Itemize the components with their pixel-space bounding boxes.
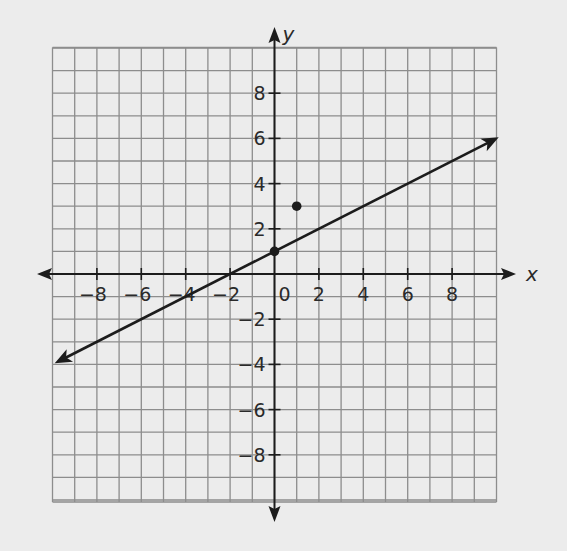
y-tick-label: 4	[253, 173, 265, 195]
y-tick-label: 8	[253, 82, 265, 104]
coordinate-plane: −8−6−4−224688642−2−4−6−8 0 x y	[0, 0, 567, 551]
x-tick-label: 8	[446, 283, 458, 305]
x-tick-label: −6	[123, 283, 151, 305]
origin-label: 0	[279, 283, 291, 305]
x-tick-label: −8	[79, 283, 107, 305]
x-tick-label: 2	[313, 283, 325, 305]
data-point-point	[292, 201, 302, 211]
y-tick-label: −8	[237, 444, 265, 466]
axes	[37, 27, 516, 522]
x-axis-label: x	[525, 262, 538, 286]
x-tick-label: 4	[357, 283, 369, 305]
y-tick-label: 2	[253, 218, 265, 240]
x-tick-label: −2	[212, 283, 240, 305]
y-tick-label: −2	[237, 308, 265, 330]
y-tick-label: 6	[253, 127, 265, 149]
data-point-y-intercept	[270, 247, 280, 257]
y-tick-label: −6	[237, 399, 265, 421]
x-tick-label: 6	[402, 283, 414, 305]
y-tick-label: −4	[237, 353, 265, 375]
y-axis-label: y	[282, 22, 296, 46]
